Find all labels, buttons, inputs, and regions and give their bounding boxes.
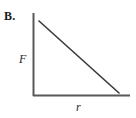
figure-panel-b: B. F r (0, 0, 136, 118)
x-axis-label: r (76, 101, 81, 113)
data-line-series-1 (39, 21, 119, 93)
y-axis-label: F (19, 53, 26, 65)
